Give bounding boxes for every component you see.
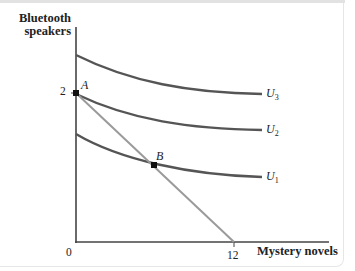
curve-label-u3: U3 <box>266 86 279 102</box>
point-a-marker <box>73 90 79 96</box>
x-axis-label: Mystery novels <box>257 244 338 259</box>
indifference-curve-u3 <box>76 55 262 94</box>
indifference-curve-u2 <box>76 94 262 130</box>
point-a-label: A <box>81 78 88 93</box>
u1-subscript: 1 <box>275 176 279 185</box>
indifference-curve-u1 <box>76 134 262 177</box>
y-axis-label-line2: speakers <box>19 25 71 38</box>
curve-label-u1: U1 <box>266 169 279 185</box>
u3-letter: U <box>266 86 275 100</box>
chart-plot <box>0 0 355 271</box>
u1-letter: U <box>266 169 275 183</box>
u2-subscript: 2 <box>275 129 279 138</box>
curve-label-u2: U2 <box>266 122 279 138</box>
y-tick-label-2: 2 <box>60 85 66 97</box>
point-b-label: B <box>156 149 163 164</box>
x-tick-label-0: 0 <box>66 246 72 258</box>
u2-letter: U <box>266 122 275 136</box>
x-tick-label-12: 12 <box>227 249 239 261</box>
y-axis-label: Bluetooth speakers <box>19 12 71 38</box>
u3-subscript: 3 <box>275 93 279 102</box>
